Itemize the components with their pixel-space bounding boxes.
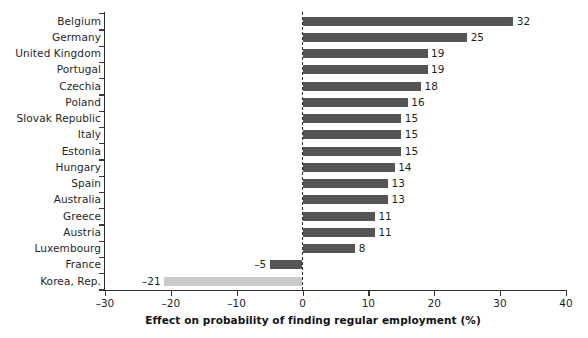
bar (270, 260, 303, 269)
y-axis-tick (99, 224, 104, 225)
category-label: Spain (71, 178, 101, 189)
x-axis-tick-label: 0 (299, 297, 306, 309)
bar (303, 98, 408, 107)
bar-value-label: 11 (378, 227, 391, 238)
bar-value-label: –5 (254, 259, 266, 270)
x-axis-tick (237, 291, 238, 296)
category-label: Czechia (59, 81, 101, 92)
bar (303, 212, 375, 221)
category-label: Australia (54, 194, 101, 205)
y-axis-tick (99, 208, 104, 209)
bar-value-label: 16 (411, 97, 424, 108)
y-axis-tick (99, 13, 104, 14)
y-axis-tick (99, 29, 104, 30)
category-label: Portugal (57, 64, 101, 75)
x-axis-tick (368, 291, 369, 296)
y-axis-tick (99, 257, 104, 258)
bar (303, 17, 514, 26)
category-label: Hungary (55, 162, 101, 173)
zero-reference-line (302, 12, 303, 290)
bar (303, 163, 395, 172)
x-axis-line (104, 290, 567, 291)
x-axis-tick (105, 291, 106, 296)
bar (303, 130, 402, 139)
bar-value-label: 25 (471, 32, 484, 43)
x-axis-tick-label: 20 (428, 297, 441, 309)
category-label: Poland (65, 97, 101, 108)
bar (303, 65, 428, 74)
bar (303, 82, 422, 91)
y-axis-tick (99, 46, 104, 47)
bar-value-label: 15 (405, 113, 418, 124)
x-axis-tick (303, 291, 304, 296)
category-label: Slovak Republic (17, 113, 101, 124)
x-axis-tick (500, 291, 501, 296)
category-axis-labels: BelgiumGermanyUnited KingdomPortugalCzec… (0, 0, 101, 290)
bar-value-label: 15 (405, 129, 418, 140)
bar-value-label: 13 (392, 194, 405, 205)
x-axis-tick-label: –20 (161, 297, 180, 309)
bar (164, 277, 302, 286)
y-axis-tick (99, 192, 104, 193)
category-label: Austria (63, 227, 101, 238)
y-axis-tick (99, 159, 104, 160)
bar-value-label: 18 (425, 81, 438, 92)
category-label: Greece (63, 211, 101, 222)
bar-chart: BelgiumGermanyUnited KingdomPortugalCzec… (0, 0, 588, 338)
bar (303, 195, 389, 204)
category-label: Korea, Rep. (40, 276, 101, 287)
bar-value-label: 19 (431, 48, 444, 59)
y-axis-tick (99, 273, 104, 274)
bar (303, 179, 389, 188)
bar (303, 49, 428, 58)
y-axis-tick (99, 176, 104, 177)
bar-value-label: 8 (359, 243, 366, 254)
category-label: Belgium (57, 16, 101, 27)
x-axis-tick-label: 40 (559, 297, 572, 309)
x-axis-tick-label: –30 (96, 297, 115, 309)
x-axis-title-text: Effect on probability of finding regular… (107, 314, 481, 326)
y-axis-line (104, 12, 105, 291)
category-label: France (65, 259, 101, 270)
bar-value-label: 14 (398, 162, 411, 173)
category-label: United Kingdom (15, 48, 101, 59)
bar-value-label: –21 (142, 276, 161, 287)
y-axis-tick (99, 78, 104, 79)
x-axis-tick (171, 291, 172, 296)
category-label: Italy (78, 129, 101, 140)
bar-value-label: 13 (392, 178, 405, 189)
bar-value-label: 32 (517, 16, 530, 27)
category-label: Luxembourg (35, 243, 101, 254)
bar (303, 147, 402, 156)
y-axis-tick (99, 94, 104, 95)
bar-value-label: 15 (405, 146, 418, 157)
y-axis-tick (99, 111, 104, 112)
bar (303, 114, 402, 123)
x-axis-tick (434, 291, 435, 296)
x-axis-tick-label: 30 (493, 297, 506, 309)
y-axis-tick (99, 241, 104, 242)
bar (303, 33, 468, 42)
x-axis-tick-label: –10 (227, 297, 246, 309)
x-axis-tick (566, 291, 567, 296)
y-axis-tick (99, 127, 104, 128)
bar-value-label: 11 (378, 211, 391, 222)
x-axis-tick-label: 10 (362, 297, 375, 309)
x-axis-title: Effect on probability of finding regular… (0, 314, 588, 326)
bar (303, 228, 375, 237)
bar-value-label: 19 (431, 64, 444, 75)
category-label: Germany (52, 32, 101, 43)
bar (303, 244, 356, 253)
y-axis-tick (99, 62, 104, 63)
y-axis-tick (99, 143, 104, 144)
category-label: Estonia (62, 146, 101, 157)
